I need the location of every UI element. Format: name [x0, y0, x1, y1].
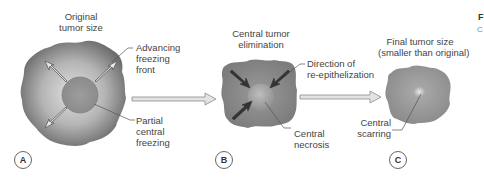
tumor-final	[385, 65, 450, 124]
callout-line: freezing	[136, 137, 170, 148]
callout-line: re-epithelization	[307, 69, 374, 80]
panel-a-title: Original tumor size	[48, 11, 114, 33]
arrow-right-icon	[132, 93, 216, 105]
callout-line: Central	[355, 117, 391, 128]
callout-partial-central-freezing: Partial central freezing	[136, 115, 170, 148]
panel-b-title: Central tumor elimination	[224, 28, 298, 50]
panel-c-title-line-1: Final tumor size	[378, 36, 462, 47]
callout-central-scarring: Central scarring	[355, 117, 391, 139]
tumor-original	[21, 41, 126, 146]
callout-line: Advancing	[136, 42, 180, 53]
panel-b-title-line-2: elimination	[224, 39, 298, 50]
panel-label-b: B	[215, 151, 233, 169]
callout-advancing-freezing-front: Advancing freezing front	[136, 42, 180, 75]
callout-central-necrosis: Central necrosis	[294, 128, 329, 150]
panel-c-title: Final tumor size (smaller than original)	[378, 36, 462, 58]
panel-label-a: A	[14, 151, 32, 169]
callout-line: freezing	[136, 53, 180, 64]
panel-b-title-line-1: Central tumor	[224, 28, 298, 39]
callout-direction-of-re-epithelization: Direction of re-epithelization	[307, 58, 374, 80]
panel-c-title-line-2: (smaller than original)	[378, 47, 462, 58]
panel-a-title-line-1: Original	[48, 11, 114, 22]
callout-line: Direction of	[307, 58, 374, 69]
callout-line: scarring	[355, 128, 391, 139]
figure-tag-sub: C	[477, 25, 483, 34]
callout-line: Central	[294, 128, 329, 139]
callout-line: necrosis	[294, 139, 329, 150]
panel-a-title-line-2: tumor size	[48, 22, 114, 33]
panel-label-c: C	[389, 151, 407, 169]
figure-tag: F	[478, 12, 484, 22]
callout-line: front	[136, 64, 180, 75]
callout-line: central	[136, 126, 170, 137]
callout-line: Partial	[136, 115, 170, 126]
arrow-right-icon	[300, 91, 381, 103]
